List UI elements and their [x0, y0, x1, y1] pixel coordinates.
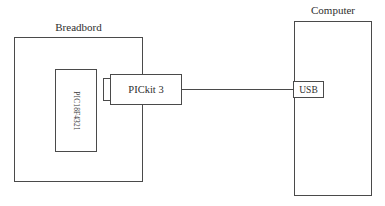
computer-caption: Computer: [294, 4, 372, 16]
usb-port-label: USB: [299, 85, 317, 95]
pic-microcontroller-label: PIC18F4321: [72, 91, 80, 130]
usb-port-box: USB: [293, 81, 324, 98]
computer-box: [294, 21, 372, 196]
pickit3-box: PICkit 3: [110, 74, 182, 105]
pickit3-label: PICkit 3: [128, 84, 163, 95]
connection-diagram: Breadbord PIC18F4321 PICkit 3 Computer U…: [0, 0, 385, 206]
usb-cable: [182, 89, 294, 90]
breadboard-caption: Breadbord: [14, 21, 143, 33]
breadboard-box: PIC18F4321: [14, 37, 143, 182]
pic-microcontroller-box: PIC18F4321: [55, 69, 97, 152]
